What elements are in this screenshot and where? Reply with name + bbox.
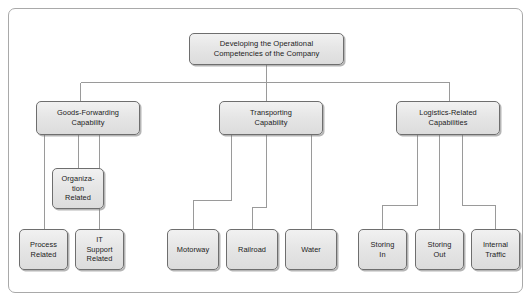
node-storing-in[interactable]: StoringIn — [358, 229, 407, 270]
node-root[interactable]: Developing the OperationalCompetencies o… — [189, 33, 344, 65]
connector-transport-to-motorway — [194, 135, 232, 229]
node-storing-in-label: StoringIn — [361, 240, 404, 259]
connector-logistics-to-storing-in — [383, 135, 418, 229]
node-water[interactable]: Water — [285, 229, 337, 270]
node-storing-out[interactable]: StoringOut — [415, 229, 464, 270]
node-process-related[interactable]: ProcessRelated — [19, 229, 68, 270]
node-logistics-related-capabilities[interactable]: Logistics-RelatedCapabilities — [396, 101, 500, 135]
node-goods-forwarding-capability[interactable]: Goods-ForwardingCapability — [36, 101, 140, 135]
node-process-related-label: ProcessRelated — [22, 240, 65, 259]
node-it-support-related-label: ITSupportRelated — [78, 235, 121, 264]
node-storing-out-label: StoringOut — [418, 240, 461, 259]
connector-logistics-to-internal-traffic — [463, 135, 496, 229]
node-root-label: Developing the OperationalCompetencies o… — [192, 39, 341, 60]
node-internal-traffic-label: InternalTraffic — [474, 240, 517, 259]
node-logistics-related-capabilities-label: Logistics-RelatedCapabilities — [399, 108, 497, 127]
node-motorway-label: Motorway — [170, 245, 216, 255]
node-organization-related-label: Organiza-tionRelated — [55, 174, 101, 203]
node-railroad-label: Railroad — [229, 245, 275, 255]
node-railroad[interactable]: Railroad — [226, 229, 278, 270]
node-motorway[interactable]: Motorway — [167, 229, 219, 270]
node-organization-related[interactable]: Organiza-tionRelated — [52, 168, 104, 209]
node-water-label: Water — [288, 245, 334, 255]
org-hierarchy-diagram: Developing the OperationalCompetencies o… — [0, 0, 532, 303]
node-goods-forwarding-capability-label: Goods-ForwardingCapability — [39, 108, 137, 127]
node-transporting-capability-label: TransportingCapability — [222, 108, 320, 127]
connector-transport-to-railroad — [253, 135, 267, 229]
node-transporting-capability[interactable]: TransportingCapability — [219, 101, 323, 135]
node-internal-traffic[interactable]: InternalTraffic — [471, 229, 520, 270]
node-it-support-related[interactable]: ITSupportRelated — [75, 229, 124, 270]
